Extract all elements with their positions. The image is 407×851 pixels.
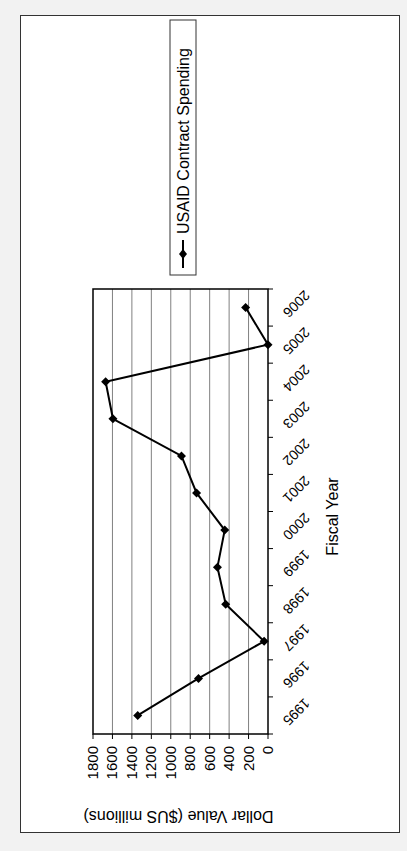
y-axis-title: Dollar Value ($US millions) xyxy=(84,808,274,825)
x-axis-title: Fiscal Year xyxy=(324,477,341,556)
y-tick-label: 1400 xyxy=(123,746,140,779)
x-tick-label: 2005 xyxy=(280,324,313,357)
y-tick-label: 800 xyxy=(181,746,198,771)
y-tick-label: 1600 xyxy=(103,746,120,779)
x-tick-label: 2003 xyxy=(280,399,313,432)
x-tick-label: 2002 xyxy=(280,436,313,469)
x-tick-label: 2001 xyxy=(280,473,313,506)
y-tick-label: 1000 xyxy=(162,746,179,779)
y-tick-label: 600 xyxy=(201,746,218,771)
x-tick-label: 2004 xyxy=(280,362,313,395)
legend: USAID Contract Spending xyxy=(170,20,196,275)
x-tick-label: 1997 xyxy=(280,621,313,654)
y-tick-label: 1800 xyxy=(84,746,101,779)
x-tick-label: 1999 xyxy=(280,547,313,580)
y-tick-label: 400 xyxy=(220,746,237,771)
legend-label: USAID Contract Spending xyxy=(175,48,192,234)
y-tick-label: 0 xyxy=(259,746,276,754)
x-tick-label: 2000 xyxy=(280,510,313,543)
x-tick-label: 1995 xyxy=(280,695,313,728)
x-tick-label: 1998 xyxy=(280,584,313,617)
y-tick-label: 1200 xyxy=(142,746,159,779)
y-tick-label: 200 xyxy=(240,746,257,771)
x-tick-label: 1996 xyxy=(280,658,313,691)
x-tick-label: 2006 xyxy=(280,287,313,320)
line-chart: 0200400600800100012001400160018001995199… xyxy=(0,0,407,851)
